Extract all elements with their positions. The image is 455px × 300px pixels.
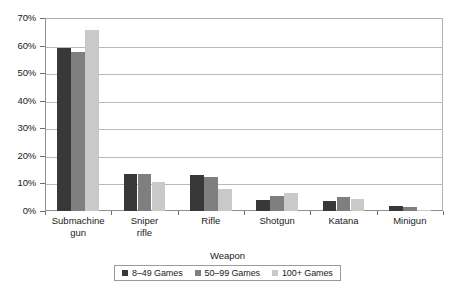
x-axis-category-label: Sniper rifle <box>111 215 177 238</box>
bar[interactable] <box>85 30 99 211</box>
bar[interactable] <box>138 174 152 211</box>
x-axis-category-label: Submachine gun <box>45 215 111 238</box>
bar[interactable] <box>204 177 218 211</box>
y-axis-tick-label: 70% <box>2 12 36 23</box>
x-axis-title: Weapon <box>0 250 455 261</box>
bar[interactable] <box>389 206 403 212</box>
bar[interactable] <box>57 48 71 211</box>
bar[interactable] <box>351 199 365 211</box>
x-axis-category-label: Shotgun <box>244 215 310 227</box>
legend-swatch-icon <box>122 270 128 276</box>
y-axis-tick-label: 20% <box>2 150 36 161</box>
bar[interactable] <box>152 182 166 211</box>
legend-swatch-icon <box>272 270 278 276</box>
chart-legend: 8–49 Games50–99 Games100+ Games <box>114 265 341 281</box>
legend-item[interactable]: 50–99 Games <box>195 268 260 278</box>
x-axis-category-label: Katana <box>310 215 376 227</box>
bar[interactable] <box>417 210 431 211</box>
x-axis-tick-mark <box>443 211 444 215</box>
bar[interactable] <box>190 175 204 211</box>
bar[interactable] <box>270 196 284 211</box>
legend-label: 100+ Games <box>282 268 333 278</box>
x-axis-category-label: Rifle <box>178 215 244 227</box>
y-axis-tick-label: 0% <box>2 205 36 216</box>
legend-label: 50–99 Games <box>205 268 260 278</box>
bar[interactable] <box>124 174 138 211</box>
x-axis-category-label: Minigun <box>377 215 443 227</box>
bar[interactable] <box>323 201 337 211</box>
y-axis-tick-label: 30% <box>2 122 36 133</box>
bar[interactable] <box>218 189 232 211</box>
y-axis-tick-label: 50% <box>2 67 36 78</box>
y-axis-tick-label: 40% <box>2 95 36 106</box>
legend-item[interactable]: 8–49 Games <box>122 268 183 278</box>
bar[interactable] <box>284 193 298 211</box>
bar-group <box>124 18 166 211</box>
bar-group <box>323 18 365 211</box>
bar-group <box>389 18 431 211</box>
y-axis-tick-label: 10% <box>2 177 36 188</box>
legend-swatch-icon <box>195 270 201 276</box>
bar-chart: 0%10%20%30%40%50%60%70% Submachine gunSn… <box>0 0 455 300</box>
bar-group <box>190 18 232 211</box>
bar[interactable] <box>403 207 417 211</box>
bar-group <box>256 18 298 211</box>
bar[interactable] <box>337 197 351 211</box>
bar[interactable] <box>71 52 85 211</box>
legend-label: 8–49 Games <box>132 268 183 278</box>
bar-group <box>57 18 99 211</box>
y-axis-tick-label: 60% <box>2 40 36 51</box>
bars-layer <box>45 18 443 211</box>
bar[interactable] <box>256 200 270 211</box>
legend-item[interactable]: 100+ Games <box>272 268 333 278</box>
